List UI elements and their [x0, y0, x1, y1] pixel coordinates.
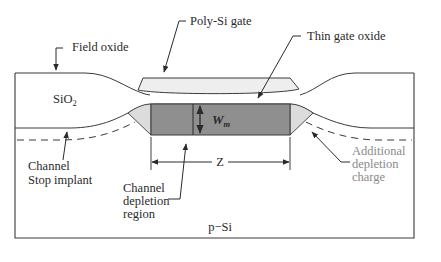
field-oxide-top-surface-right [300, 73, 414, 95]
poly-si-gate-leader [164, 21, 186, 72]
substrate-label: p−Si [208, 220, 232, 234]
additional-label-line3: charge [352, 170, 386, 184]
channel-stop-implant-left [17, 122, 135, 140]
channel-stop-leader [63, 132, 67, 160]
channel-stop-implant-right [306, 122, 412, 140]
additional-depletion-right [290, 104, 313, 135]
poly-si-gate [138, 78, 299, 94]
channel-stop-label-line1: Channel [28, 159, 70, 173]
mosfet-width-cross-section-diagram: Wm Z SiO2 Field oxide Poly-Si gate Thin … [0, 0, 441, 262]
additional-label-line1: Additional [352, 144, 406, 158]
channel-depletion-label-line3: region [123, 207, 156, 221]
channel-depletion-leader [168, 144, 186, 199]
field-oxide-bottom-interface-left [15, 113, 128, 128]
field-oxide-bottom-interface-right [313, 113, 414, 128]
additional-label-line2: depletion [352, 157, 399, 171]
thin-gate-oxide-label: Thin gate oxide [307, 29, 386, 43]
channel-depletion-label-line2: depletion [123, 194, 170, 208]
z-label: Z [216, 155, 224, 169]
additional-depletion-left [128, 104, 151, 135]
field-oxide-leader [56, 48, 63, 70]
field-oxide-top-surface [15, 73, 150, 95]
channel-stop-label-line2: Stop implant [28, 173, 93, 187]
channel-depletion-label-line1: Channel [123, 181, 165, 195]
poly-si-gate-label: Poly-Si gate [190, 14, 252, 28]
field-oxide-label: Field oxide [72, 40, 129, 54]
sio2-label: SiO2 [53, 92, 77, 108]
